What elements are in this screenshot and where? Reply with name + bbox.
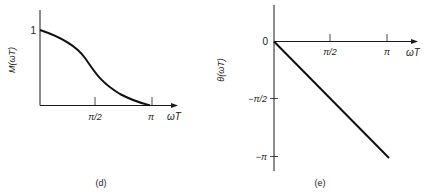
y-axis-label: θ(ωT) (216, 58, 226, 81)
x-tick-label-pi: π (384, 47, 391, 57)
y-tick-label-neg-pi-half: −π/2 (248, 94, 267, 104)
y-axis-label: M(ωT) (7, 47, 17, 73)
phase-line (274, 42, 389, 159)
x-axis-label: ωT (406, 47, 421, 58)
caption-e: (e) (315, 178, 326, 188)
x-axis-arrow-icon (411, 39, 418, 44)
figure: 1 π/2 π ωT M(ωT) (d) 0 −π/2 −π π/2 π ωT … (0, 0, 426, 196)
y-tick-label-1: 1 (30, 25, 36, 36)
panel-d: 1 π/2 π ωT M(ωT) (d) (7, 10, 182, 188)
magnitude-curve (40, 30, 150, 105)
y-tick-label-neg-pi: −π (256, 152, 268, 162)
x-tick-label-pi-half: π/2 (323, 47, 337, 57)
x-axis-arrow-icon (171, 103, 178, 108)
caption-d: (d) (96, 178, 107, 188)
y-tick-label-0: 0 (262, 36, 268, 47)
x-tick-label-pi: π (148, 112, 155, 122)
x-tick-label-pi-half: π/2 (88, 112, 102, 122)
panel-e: 0 −π/2 −π π/2 π ωT θ(ωT) (e) (216, 5, 421, 188)
x-axis-label: ωT (167, 111, 182, 122)
